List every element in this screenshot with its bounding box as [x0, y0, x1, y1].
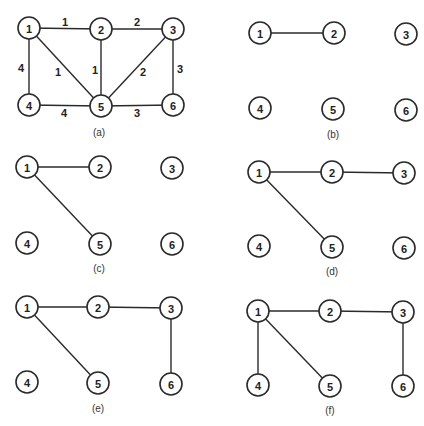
node-label: 3 — [170, 24, 176, 36]
node-label: 4 — [24, 377, 31, 389]
node-label: 4 — [26, 100, 33, 112]
node-label: 1 — [26, 23, 32, 35]
node-3: 3 — [162, 18, 184, 40]
node-5: 5 — [319, 375, 341, 397]
edge-weight-1-5: 1 — [55, 66, 61, 78]
node-label: 1 — [24, 162, 30, 174]
node-label: 3 — [401, 168, 407, 180]
node-label: 2 — [97, 162, 103, 174]
node-label: 5 — [98, 101, 104, 113]
panel-caption: (f) — [325, 405, 334, 416]
node-2: 2 — [89, 156, 111, 178]
node-5: 5 — [321, 236, 343, 258]
edge-weight-3-5: 2 — [140, 66, 146, 78]
node-4: 4 — [16, 232, 38, 254]
node-4: 4 — [247, 374, 269, 396]
node-label: 5 — [95, 378, 101, 390]
node-1: 1 — [247, 300, 269, 322]
node-label: 5 — [327, 381, 333, 393]
node-label: 6 — [403, 105, 409, 117]
node-3: 3 — [160, 297, 182, 319]
node-label: 2 — [327, 306, 333, 318]
edge-1-5 — [258, 311, 330, 386]
node-3: 3 — [395, 23, 417, 45]
node-label: 4 — [256, 241, 263, 253]
node-label: 5 — [97, 239, 103, 251]
node-6: 6 — [161, 233, 183, 255]
node-4: 4 — [16, 371, 38, 393]
node-label: 6 — [169, 239, 175, 251]
node-4: 4 — [18, 94, 40, 116]
panel-caption: (b) — [327, 129, 339, 140]
node-1: 1 — [18, 17, 40, 39]
node-3: 3 — [392, 301, 414, 323]
node-1: 1 — [16, 296, 38, 318]
panel-d: 123456(d) — [248, 161, 415, 277]
node-6: 6 — [160, 373, 182, 395]
edge-1-5 — [27, 307, 98, 383]
edge-1-5 — [29, 28, 101, 106]
panel-caption: (a) — [93, 127, 105, 138]
node-label: 5 — [329, 242, 335, 254]
node-3: 3 — [161, 157, 183, 179]
node-2: 2 — [87, 296, 109, 318]
node-label: 2 — [331, 28, 337, 40]
edge-1-5 — [259, 172, 332, 247]
node-6: 6 — [393, 237, 415, 259]
node-5: 5 — [90, 95, 112, 117]
node-label: 1 — [255, 306, 261, 318]
node-4: 4 — [249, 97, 271, 119]
edge-weight-1-4: 4 — [18, 62, 25, 74]
edge-weight-1-2: 1 — [62, 16, 68, 28]
node-label: 5 — [330, 104, 336, 116]
panel-c: 123456(c) — [16, 156, 183, 274]
node-5: 5 — [89, 233, 111, 255]
node-2: 2 — [321, 161, 343, 183]
panel-e: 123456(e) — [16, 296, 182, 414]
node-5: 5 — [322, 98, 344, 120]
node-6: 6 — [395, 99, 417, 121]
edge-weight-3-6: 3 — [177, 63, 183, 75]
node-5: 5 — [87, 372, 109, 394]
node-label: 2 — [329, 167, 335, 179]
edge-weight-2-5: 1 — [92, 64, 98, 76]
node-label: 4 — [255, 380, 262, 392]
edge-3-5 — [101, 29, 173, 106]
node-label: 1 — [24, 302, 30, 314]
node-label: 4 — [24, 238, 31, 250]
node-label: 6 — [170, 100, 176, 112]
node-3: 3 — [393, 162, 415, 184]
panel-caption: (c) — [93, 263, 105, 274]
panel-f: 123456(f) — [247, 300, 414, 416]
node-label: 4 — [257, 103, 264, 115]
node-1: 1 — [16, 156, 38, 178]
node-label: 2 — [95, 302, 101, 314]
node-6: 6 — [162, 94, 184, 116]
panel-a: 124112343123456(a) — [18, 16, 184, 138]
panel-caption: (e) — [92, 403, 104, 414]
node-label: 3 — [400, 307, 406, 319]
node-label: 6 — [168, 379, 174, 391]
edge-weight-2-3: 2 — [134, 16, 140, 28]
node-2: 2 — [323, 22, 345, 44]
node-6: 6 — [392, 375, 414, 397]
node-2: 2 — [319, 300, 341, 322]
node-label: 3 — [169, 163, 175, 175]
node-label: 1 — [256, 167, 262, 179]
node-4: 4 — [248, 235, 270, 257]
node-1: 1 — [248, 161, 270, 183]
edge-1-5 — [27, 167, 100, 244]
mst-figure: 124112343123456(a)123456(b)123456(c)1234… — [0, 0, 424, 426]
edge-weight-4-5: 4 — [61, 107, 68, 119]
node-2: 2 — [90, 18, 112, 40]
node-label: 3 — [168, 303, 174, 315]
panel-b: 123456(b) — [249, 22, 417, 140]
panel-caption: (d) — [326, 266, 338, 277]
edge-weight-5-6: 3 — [134, 107, 140, 119]
node-1: 1 — [249, 22, 271, 44]
node-label: 6 — [400, 381, 406, 393]
node-label: 2 — [98, 24, 104, 36]
node-label: 3 — [403, 29, 409, 41]
node-label: 6 — [401, 243, 407, 255]
node-label: 1 — [257, 28, 263, 40]
